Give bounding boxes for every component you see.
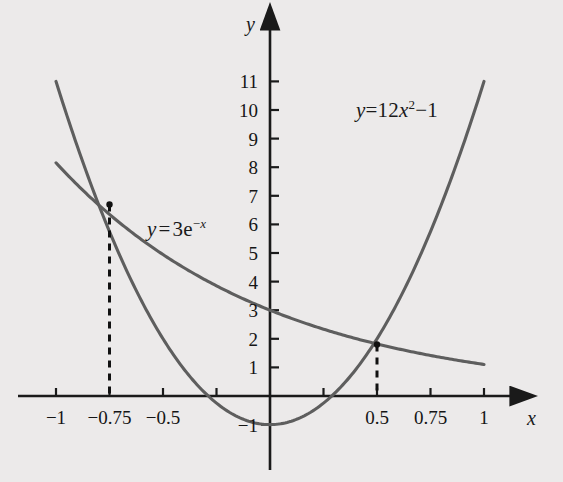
y-tick-label: 6	[224, 215, 258, 234]
y-tick-label: 8	[224, 158, 258, 177]
parabola-eq-variable: x	[399, 98, 409, 122]
parabola-eq-constant: 1	[427, 98, 438, 122]
y-tick-label: 1	[224, 358, 258, 377]
y-tick-label: 11	[224, 72, 258, 91]
exponential-eq-equals: =	[159, 217, 171, 241]
x-tick-label: −0.5	[146, 408, 180, 427]
exponential-equation-label: y=3e−x	[147, 219, 206, 240]
parabola-eq-lhs: y	[356, 98, 366, 122]
x-tick-label: 1	[479, 408, 489, 427]
exponential-eq-coefficient: 3	[173, 217, 184, 241]
exponential-eq-exp-variable: x	[200, 216, 206, 231]
intersection-point	[374, 341, 380, 347]
x-axis-label: x	[527, 408, 536, 428]
exponential-eq-lhs: y	[147, 217, 157, 241]
y-tick-label: 9	[224, 129, 258, 148]
intersection-point	[106, 201, 112, 207]
x-tick-label: −1	[46, 408, 66, 427]
y-tick-label: 2	[224, 329, 258, 348]
parabola-equation-label: y=12x2−1	[356, 100, 438, 121]
y-tick-label: 10	[224, 101, 258, 120]
y-axis-label: y	[246, 14, 255, 34]
graph-figure: y x −1−0.75−0.50.50.751 1110987654321−1 …	[0, 0, 563, 482]
parabola-eq-equals: =	[366, 98, 378, 122]
y-tick-label: −1	[224, 415, 258, 434]
y-tick-label: 5	[224, 244, 258, 263]
y-tick-label: 3	[224, 301, 258, 320]
x-tick-label: 0.75	[414, 408, 447, 427]
parabola-eq-coefficient: 12	[378, 98, 399, 122]
parabola-eq-operator: −	[415, 98, 427, 122]
exponential-eq-base: e	[183, 217, 193, 241]
x-tick-label: 0.5	[365, 408, 389, 427]
axes-group	[18, 28, 512, 470]
y-tick-label: 7	[224, 186, 258, 205]
y-tick-label: 4	[224, 272, 258, 291]
x-tick-label: −0.75	[88, 408, 132, 427]
